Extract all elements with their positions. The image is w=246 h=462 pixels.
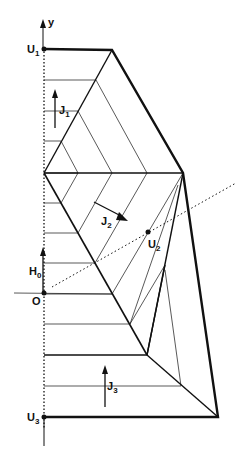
J1-arrow-head [52, 89, 58, 98]
J3-arrow-head [102, 365, 108, 374]
label-U1: U1 [27, 44, 39, 58]
label-U3: U3 [27, 412, 39, 426]
label-y: y [48, 17, 54, 28]
label-J3: J3 [107, 381, 118, 395]
point-U2 [146, 230, 151, 235]
diagram-canvas [0, 0, 246, 462]
label-J1: J1 [59, 105, 70, 119]
H0-arrow-head [40, 247, 46, 256]
label-U2: U2 [148, 239, 160, 253]
label-J2: J2 [101, 216, 112, 230]
point-U1 [42, 47, 47, 52]
y-arrow-head [40, 19, 46, 28]
label-O: O [32, 296, 41, 307]
J2-arrow-head [116, 212, 128, 221]
label-H0: H0 [29, 266, 41, 280]
point-U3 [42, 415, 47, 420]
